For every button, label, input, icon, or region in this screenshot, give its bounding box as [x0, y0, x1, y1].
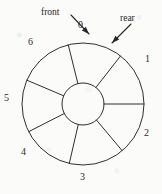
spoke-3-4 — [69, 124, 78, 163]
spoke-5-6 — [27, 80, 64, 96]
slot-label-1: 1 — [145, 54, 150, 64]
hub-circle — [62, 83, 104, 125]
circular-queue-diagram: 0123456 frontrear — [0, 0, 162, 194]
rear-pointer-label: rear — [120, 14, 135, 24]
slot-label-3: 3 — [80, 172, 85, 182]
slot-label-5: 5 — [4, 93, 9, 103]
spoke-0-1 — [96, 56, 121, 88]
slot-label-4: 4 — [21, 147, 26, 157]
spoke-2-3 — [97, 120, 123, 151]
slot-label-2: 2 — [144, 128, 149, 138]
front-pointer-label: front — [41, 8, 59, 18]
spoke-0-6 — [68, 45, 78, 84]
slot-label-0: 0 — [78, 20, 83, 30]
spoke-4-5 — [29, 114, 65, 132]
spokes-group — [27, 45, 144, 164]
slot-label-6: 6 — [28, 37, 33, 47]
